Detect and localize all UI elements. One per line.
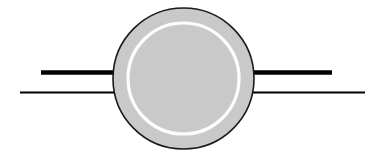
figure-canvas: Schematic cross-section of a ring-shaped… [0,0,385,158]
schematic-figure: Schematic cross-section of a ring-shaped… [0,0,385,158]
outer-disc-shape [113,8,254,149]
